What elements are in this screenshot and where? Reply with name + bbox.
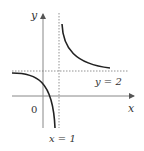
lower-branch-curve: [12, 73, 55, 128]
graph-canvas: y 0 x y = 2 x = 1: [0, 0, 144, 151]
origin-label: 0: [31, 104, 37, 115]
upper-branch-curve: [62, 24, 110, 68]
vertical-asymptote-label: x = 1: [49, 133, 76, 144]
y-axis-label: y: [30, 9, 38, 22]
horizontal-asymptote-label: y = 2: [94, 76, 122, 87]
x-axis-label: x: [128, 102, 135, 115]
